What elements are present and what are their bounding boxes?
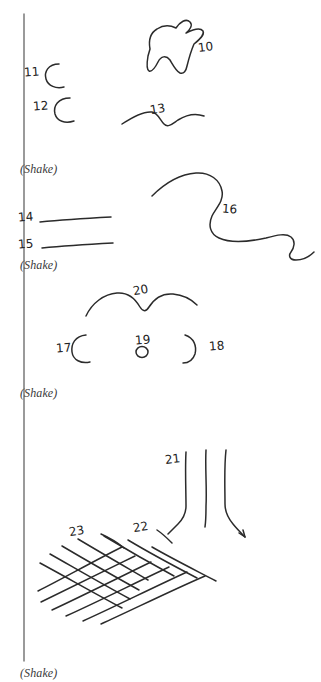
- callout-15: 15: [18, 237, 34, 250]
- callout-18: 18: [209, 339, 225, 352]
- figure-sheet: (Shake) (Shake) (Shake) (Shake) 10 11 12…: [0, 0, 321, 682]
- callout-16: 16: [222, 202, 238, 215]
- right-bracket-curve: [183, 335, 196, 363]
- straight-line-lower: [42, 243, 113, 248]
- callout-19: 19: [135, 333, 151, 346]
- callout-17: 17: [56, 341, 72, 354]
- shake-caption-2: (Shake): [20, 259, 57, 272]
- callout-12: 12: [33, 99, 49, 112]
- callout-21: 21: [164, 452, 181, 466]
- mesh-grid: [38, 536, 216, 624]
- c-curve-lower: [55, 98, 74, 122]
- shake-caption-1: (Shake): [20, 163, 57, 176]
- callout-20: 20: [132, 283, 149, 297]
- shake-caption-3: (Shake): [20, 387, 57, 400]
- irregular-blob-shape: [147, 20, 203, 73]
- vertical-strand-middle: [205, 450, 206, 527]
- callout-14: 14: [18, 210, 34, 223]
- callout-10: 10: [197, 40, 214, 54]
- c-curve-upper: [46, 64, 64, 88]
- shake-caption-4: (Shake): [20, 667, 57, 680]
- straight-line-upper: [40, 217, 111, 222]
- vertical-strand-right: [225, 450, 245, 537]
- callout-22: 22: [132, 520, 149, 534]
- s-serpentine-curve: [152, 173, 314, 260]
- small-circle: [136, 347, 148, 358]
- left-bracket-curve: [72, 335, 90, 363]
- callout-11: 11: [24, 65, 40, 78]
- callout-13: 13: [149, 102, 166, 116]
- callout-23: 23: [68, 524, 85, 538]
